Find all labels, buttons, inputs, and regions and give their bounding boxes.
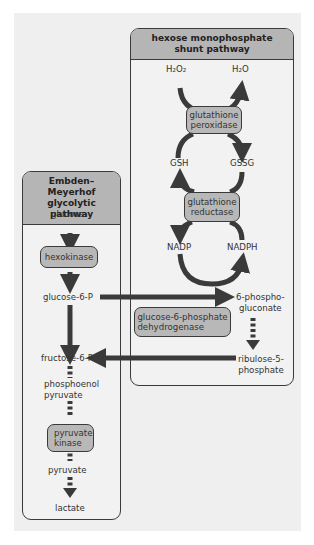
phosphoenol-pyruvate-label: phosphoenolpyruvate	[44, 379, 99, 400]
gsh-label: GSH	[170, 158, 189, 169]
arc-gssg	[228, 134, 242, 153]
glucose-label: glucose	[51, 209, 84, 220]
glutathione-peroxidase-enzyme: glutathioneperoxidase	[186, 106, 242, 134]
fructose-6-p-label: fructose-6-P	[41, 353, 93, 364]
ribulose-5-phosphate-label: ribulose-5-phosphate	[238, 354, 284, 375]
gssg-label: GSSG	[230, 158, 254, 169]
6-phosphogluconate-label: 6-phospho-gluconate	[236, 292, 285, 313]
pyruvate-kinase-enzyme: pyruvatekinase	[47, 424, 94, 452]
arc-gssg-down	[230, 172, 242, 192]
glucose-6-p-label: glucose-6-P	[43, 292, 93, 303]
arc-nadp-nadph	[180, 254, 242, 284]
arc-gsh-up	[178, 134, 193, 158]
pathway-arrows	[0, 0, 314, 545]
glutathione-reductase-enzyme: glutathionereductase	[184, 192, 240, 222]
g6pd-enzyme: glucose-6-phosphatedehydrogenase	[134, 307, 231, 337]
arc-nadp	[180, 222, 192, 235]
arc-gsh	[180, 178, 194, 192]
nadph-label: NADPH	[227, 242, 258, 253]
h2o-label: H₂O	[232, 64, 249, 75]
pyruvate-label: pyruvate	[48, 465, 87, 476]
nadp-label: NADP	[167, 242, 191, 253]
hexokinase-enzyme: hexokinase	[40, 246, 98, 268]
lactate-label: lactate	[55, 503, 85, 514]
arc-nadph-up	[230, 222, 242, 240]
h2o2-label: H₂O₂	[166, 64, 186, 75]
